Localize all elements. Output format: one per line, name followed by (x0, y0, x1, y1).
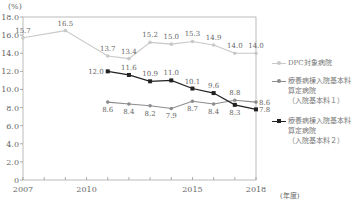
legend-label: （入院基本料２） (272, 136, 351, 146)
y-tick-label: 2.0 (6, 158, 19, 167)
series-group (21, 29, 258, 112)
legend-label: 算定病院 (272, 86, 351, 96)
data-label: 9.6 (208, 82, 220, 90)
y-tick-label: 12.0 (1, 67, 19, 76)
data-point (64, 29, 68, 33)
data-point (127, 57, 131, 61)
data-label: 8.3 (229, 109, 240, 117)
legend-label: DPC対象病院 (288, 59, 332, 67)
data-point (169, 42, 173, 46)
data-label: 8.4 (208, 108, 220, 116)
y-tick-label: 14.0 (1, 49, 19, 58)
data-label: 15.7 (15, 27, 31, 35)
data-label: 15.0 (163, 33, 179, 41)
data-point (254, 100, 258, 104)
data-label: 8.2 (145, 110, 156, 118)
data-point (106, 100, 110, 104)
legend-swatch (272, 117, 286, 125)
x-tick-label: 2015 (182, 185, 202, 194)
legend-swatch (272, 59, 286, 67)
data-point (254, 51, 258, 55)
data-point (148, 104, 152, 108)
data-point (21, 36, 25, 40)
data-label: 14.0 (227, 42, 243, 50)
x-axis-unit-label: (年度) (280, 191, 300, 200)
data-label: 14.0 (248, 42, 264, 50)
legend-label: 療養病棟入院基本料 (288, 117, 351, 125)
legend-item-rate1: 療養病棟入院基本料 算定病院 （入院基本料１） (272, 76, 351, 106)
data-label: 11.6 (121, 64, 137, 72)
data-point (254, 107, 258, 111)
data-point (127, 102, 131, 106)
data-label: 8.6 (102, 106, 114, 114)
y-tick-label: 4.0 (6, 140, 19, 149)
data-label: 15.2 (142, 31, 158, 39)
data-label: 13.4 (121, 48, 137, 56)
x-tick-label: 2007 (13, 185, 33, 194)
data-label: 10.1 (185, 78, 201, 86)
y-tick-label: 6.0 (6, 122, 19, 131)
data-label: 14.9 (206, 34, 222, 42)
data-label: 7.9 (166, 112, 177, 120)
data-point (106, 54, 110, 58)
data-point (191, 99, 195, 103)
y-tick-label: 8.0 (6, 104, 19, 113)
data-point (127, 73, 131, 77)
y-tick-label: 0 (14, 176, 19, 185)
data-point (191, 40, 195, 44)
data-point (212, 91, 216, 95)
axes: 02.04.06.08.010.012.014.016.018.02007201… (1, 13, 266, 194)
data-label: 8.8 (229, 89, 240, 97)
data-point (169, 78, 173, 82)
data-point (212, 43, 216, 47)
y-tick-label: 18.0 (1, 13, 19, 22)
data-point (148, 79, 152, 83)
legend-item-rate2: 療養病棟入院基本料 算定病院 （入院基本料２） (272, 116, 351, 146)
data-label: 11.0 (163, 69, 179, 77)
data-point (148, 41, 152, 45)
x-tick-label: 2018 (246, 185, 266, 194)
data-label: 15.3 (185, 30, 201, 38)
x-tick-label: 2010 (76, 185, 96, 194)
legend-label: 算定病院 (272, 126, 351, 136)
data-label: 13.7 (100, 45, 116, 53)
data-point (233, 51, 237, 55)
data-point (233, 99, 237, 103)
legend-item-dpc: DPC対象病院 (272, 58, 332, 68)
data-point (106, 69, 110, 73)
data-label: 8.4 (123, 108, 135, 116)
data-point (169, 107, 173, 111)
legend-swatch (272, 77, 286, 85)
data-point (212, 102, 216, 106)
legend-label: （入院基本料１） (272, 96, 351, 106)
data-label: 12.0 (88, 68, 104, 76)
data-label: 7.8 (259, 106, 270, 114)
y-axis-unit-label: (%) (8, 2, 22, 11)
y-tick-label: 10.0 (1, 85, 19, 94)
data-point (233, 103, 237, 107)
data-label: 10.9 (142, 70, 158, 78)
legend-label: 療養病棟入院基本料 (288, 77, 351, 85)
data-label: 8.7 (187, 105, 198, 113)
data-label: 16.5 (58, 20, 74, 28)
data-point (190, 87, 194, 91)
